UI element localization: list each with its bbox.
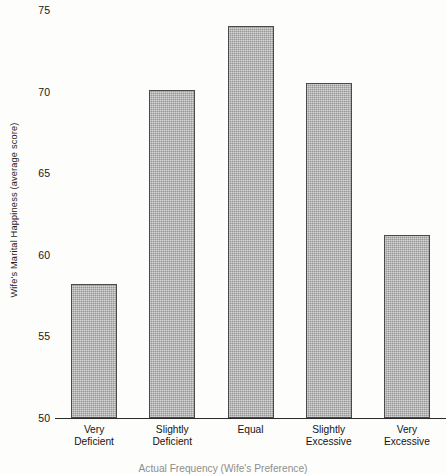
x-axis-tick-line: Very (354, 424, 446, 436)
x-axis-tick-very-excessive: VeryExcessive (354, 424, 446, 449)
bar-very-deficient (71, 284, 117, 418)
x-axis-line (55, 418, 446, 419)
x-axis-title: Actual Frequency (Wife's Preference) (0, 463, 446, 474)
y-axis-tick-70: 70 (24, 86, 50, 98)
x-axis-tick-line: Excessive (354, 436, 446, 448)
plot-area (55, 10, 446, 418)
y-axis-tick-55: 55 (24, 330, 50, 342)
bar-slightly-excessive (306, 83, 352, 418)
y-axis-tick-labels: 757065605550 (20, 0, 50, 473)
y-axis-tick-65: 65 (24, 167, 50, 179)
bar-equal (228, 26, 274, 418)
bar-very-excessive (384, 235, 430, 418)
y-axis-title: Wife's Marital Happiness (average score) (9, 110, 19, 310)
y-axis-tick-50: 50 (24, 412, 50, 424)
y-axis-tick-60: 60 (24, 249, 50, 261)
y-axis-tick-75: 75 (24, 4, 50, 16)
bar-slightly-deficient (149, 90, 195, 418)
x-axis-tick-line: Deficient (119, 436, 225, 448)
